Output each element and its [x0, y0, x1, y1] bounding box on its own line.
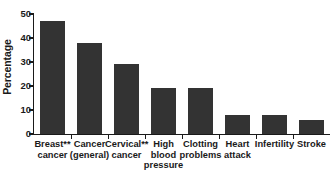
bar: [151, 88, 176, 134]
bar: [40, 21, 65, 134]
bar: [299, 120, 324, 134]
y-axis-title-text: Percentage: [1, 39, 13, 95]
y-tick-mark: [29, 85, 34, 86]
y-tick-mark: [29, 37, 34, 38]
y-tick-mark: [29, 61, 34, 62]
y-tick-mark: [29, 133, 34, 134]
bar-chart-figure: Percentage 01020304050 Breast** cancerCa…: [0, 0, 331, 178]
x-axis-tick-labels: Breast** cancerCancer (general)Cervical*…: [34, 139, 330, 178]
x-tick-mark: [71, 135, 72, 139]
bar: [262, 115, 287, 134]
x-tick-mark: [108, 135, 109, 139]
bar: [77, 43, 102, 134]
x-tick-mark: [256, 135, 257, 139]
bar: [225, 115, 250, 134]
bar: [188, 88, 213, 134]
y-axis-tick-labels: 01020304050: [13, 0, 31, 140]
x-tick-mark: [219, 135, 220, 139]
x-tick-mark: [145, 135, 146, 139]
x-tick-mark: [293, 135, 294, 139]
x-tick-mark: [182, 135, 183, 139]
x-tick-label: Stroke: [290, 139, 331, 150]
plot-area: [34, 0, 330, 134]
y-tick-mark: [29, 109, 34, 110]
bar: [114, 64, 139, 134]
y-axis-title: Percentage: [0, 0, 14, 134]
y-tick-mark: [29, 13, 34, 14]
